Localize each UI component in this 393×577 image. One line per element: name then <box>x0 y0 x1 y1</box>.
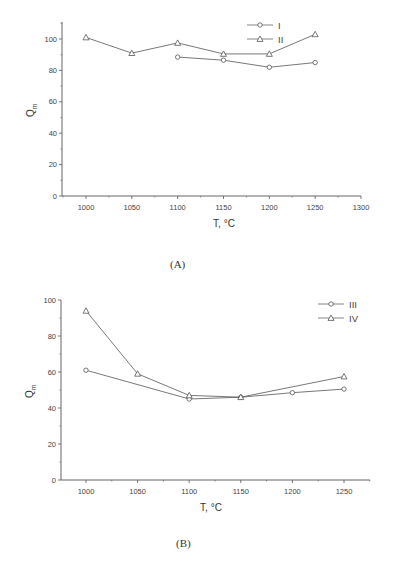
y-tick-label: 20 <box>48 440 56 449</box>
caption-a: (A) <box>170 258 185 270</box>
y-tick-label: 60 <box>48 368 56 377</box>
legend-label-iv: IV <box>349 313 359 324</box>
circle-marker <box>84 368 88 372</box>
x-tick-label: 1250 <box>336 487 353 496</box>
x-tick-label: 1150 <box>233 487 249 496</box>
y-axis-title: Qm <box>24 385 37 398</box>
y-tick-label: 40 <box>48 404 56 413</box>
x-tick-label: 1000 <box>78 487 95 496</box>
x-tick-label: 1200 <box>284 487 301 496</box>
x-tick-label: 1050 <box>129 487 146 496</box>
triangle-marker <box>341 374 347 379</box>
chart-b: 020406080100100010501100115012001250T, °… <box>0 0 393 577</box>
legend-label-iii: III <box>349 299 357 310</box>
caption-b: (B) <box>176 537 191 549</box>
x-tick-label: 1100 <box>181 487 197 496</box>
series-line-iv <box>86 311 344 397</box>
y-tick-label: 0 <box>52 476 56 485</box>
triangle-marker <box>83 308 89 313</box>
circle-marker <box>290 391 294 395</box>
y-tick-label: 80 <box>48 332 56 341</box>
circle-marker <box>342 387 346 391</box>
legend-circle-icon <box>329 302 333 306</box>
y-tick-label: 100 <box>43 296 56 305</box>
x-axis-title: T, °C <box>200 502 222 513</box>
